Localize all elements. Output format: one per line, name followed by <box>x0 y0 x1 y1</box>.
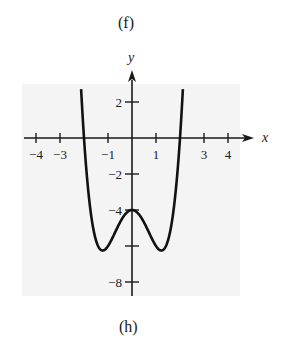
y-axis-label: y <box>126 50 135 65</box>
x-axis-label: x <box>261 130 269 145</box>
x-tick-label: 1 <box>153 147 160 162</box>
x-tick-label: 3 <box>201 147 208 162</box>
x-tick-label: −3 <box>53 147 67 162</box>
function-plot: xy−4−3−11342−2−4−8 <box>0 0 282 348</box>
x-tick-label: −1 <box>101 147 115 162</box>
y-tick-label: −2 <box>108 167 122 182</box>
y-tick-label: 2 <box>116 95 123 110</box>
x-tick-label: 4 <box>225 147 232 162</box>
y-tick-label: −8 <box>108 275 122 290</box>
plot-background <box>22 84 240 296</box>
x-tick-label: −4 <box>29 147 43 162</box>
bottom-figure-label: (h) <box>119 318 138 336</box>
y-tick-label: −4 <box>108 203 122 218</box>
